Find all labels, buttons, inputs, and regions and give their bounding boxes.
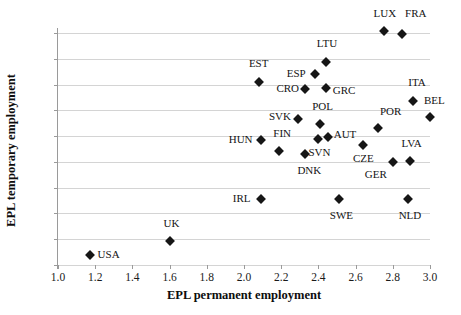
y-tick-mark bbox=[54, 239, 58, 240]
data-point-label: POR bbox=[380, 105, 401, 117]
data-point-marker[interactable] bbox=[293, 114, 303, 124]
x-tick-mark bbox=[132, 265, 133, 269]
x-tick-label: 2.0 bbox=[237, 271, 251, 283]
y-tick-mark bbox=[54, 110, 58, 111]
data-point-marker[interactable] bbox=[403, 194, 413, 204]
data-point-label: NLD bbox=[399, 209, 422, 221]
gridline-horizontal bbox=[58, 85, 430, 86]
data-point-marker[interactable] bbox=[425, 112, 435, 122]
gridline-horizontal bbox=[58, 59, 430, 60]
data-point-label: BEL bbox=[424, 94, 445, 106]
x-tick-label: 2.6 bbox=[348, 271, 362, 283]
x-tick-mark bbox=[281, 265, 282, 269]
x-tick-mark bbox=[430, 265, 431, 269]
y-tick-mark bbox=[54, 136, 58, 137]
x-tick-label: 2.2 bbox=[274, 271, 288, 283]
data-point-marker[interactable] bbox=[315, 119, 325, 129]
data-point-label: IRL bbox=[233, 192, 251, 204]
data-point-marker[interactable] bbox=[85, 250, 95, 260]
x-tick-mark bbox=[95, 265, 96, 269]
x-tick-label: 2.8 bbox=[386, 271, 400, 283]
data-point-marker[interactable] bbox=[388, 157, 398, 167]
x-tick-label: 1.8 bbox=[200, 271, 214, 283]
x-tick-label: 2.4 bbox=[311, 271, 325, 283]
x-tick-mark bbox=[318, 265, 319, 269]
x-tick-mark bbox=[207, 265, 208, 269]
x-tick-label: 1.2 bbox=[88, 271, 102, 283]
y-tick-mark bbox=[54, 85, 58, 86]
x-tick-mark bbox=[170, 265, 171, 269]
data-point-marker[interactable] bbox=[358, 140, 368, 150]
data-point-label: AUT bbox=[334, 128, 357, 140]
data-point-label: SVN bbox=[308, 146, 330, 158]
plot-area: 0.20.61.01.41.82.22.63.03.43.81.01.21.41… bbox=[58, 33, 430, 265]
y-tick-mark bbox=[54, 33, 58, 34]
data-point-label: UK bbox=[164, 217, 180, 229]
data-point-label: CRO bbox=[276, 82, 299, 94]
x-tick-mark bbox=[393, 265, 394, 269]
data-point-marker[interactable] bbox=[323, 132, 333, 142]
scatter-chart: 0.20.61.01.41.82.22.63.03.43.81.01.21.41… bbox=[0, 0, 461, 315]
data-point-label: LUX bbox=[374, 7, 397, 19]
y-axis-title: EPL temporary employment bbox=[3, 0, 19, 300]
x-axis-title: EPL permanent employment bbox=[58, 288, 430, 303]
gridline-horizontal bbox=[58, 162, 430, 163]
y-tick-mark bbox=[54, 59, 58, 60]
x-tick-mark bbox=[58, 265, 59, 269]
data-point-label: LVA bbox=[402, 137, 422, 149]
data-point-marker[interactable] bbox=[310, 69, 320, 79]
data-point-marker[interactable] bbox=[256, 194, 266, 204]
data-point-label: GRC bbox=[333, 84, 356, 96]
data-point-label: FRA bbox=[405, 7, 426, 19]
x-tick-mark bbox=[244, 265, 245, 269]
x-tick-label: 1.0 bbox=[51, 271, 65, 283]
data-point-marker[interactable] bbox=[379, 26, 389, 36]
gridline-horizontal bbox=[58, 110, 430, 111]
data-point-label: SWE bbox=[330, 209, 353, 221]
data-point-marker[interactable] bbox=[405, 156, 415, 166]
gridline-horizontal bbox=[58, 188, 430, 189]
data-point-marker[interactable] bbox=[165, 236, 175, 246]
data-point-label: ESP bbox=[287, 67, 306, 79]
x-tick-label: 3.0 bbox=[423, 271, 437, 283]
data-point-label: FIN bbox=[273, 127, 291, 139]
x-tick-label: 1.6 bbox=[162, 271, 176, 283]
data-point-label: HUN bbox=[229, 133, 253, 145]
y-tick-mark bbox=[54, 188, 58, 189]
data-point-label: EST bbox=[249, 57, 269, 69]
data-point-label: POL bbox=[312, 100, 333, 112]
data-point-label: SVK bbox=[269, 110, 291, 122]
data-point-marker[interactable] bbox=[274, 146, 284, 156]
y-tick-mark bbox=[54, 213, 58, 214]
x-tick-label: 1.4 bbox=[125, 271, 139, 283]
data-point-marker[interactable] bbox=[300, 84, 310, 94]
y-tick-mark bbox=[54, 162, 58, 163]
gridline-horizontal bbox=[58, 213, 430, 214]
data-point-label: ITA bbox=[408, 76, 425, 88]
y-axis-title-text: EPL temporary employment bbox=[4, 74, 19, 227]
data-point-label: DNK bbox=[297, 164, 321, 176]
data-point-marker[interactable] bbox=[334, 194, 344, 204]
data-point-marker[interactable] bbox=[373, 123, 383, 133]
data-point-marker[interactable] bbox=[408, 96, 418, 106]
data-point-label: LTU bbox=[317, 37, 337, 49]
data-point-marker[interactable] bbox=[397, 29, 407, 39]
x-tick-mark bbox=[356, 265, 357, 269]
data-point-label: GER bbox=[365, 168, 387, 180]
gridline-horizontal bbox=[58, 239, 430, 240]
data-point-label: CZE bbox=[353, 152, 374, 164]
data-point-label: USA bbox=[98, 248, 120, 260]
gridline-horizontal bbox=[58, 33, 430, 34]
